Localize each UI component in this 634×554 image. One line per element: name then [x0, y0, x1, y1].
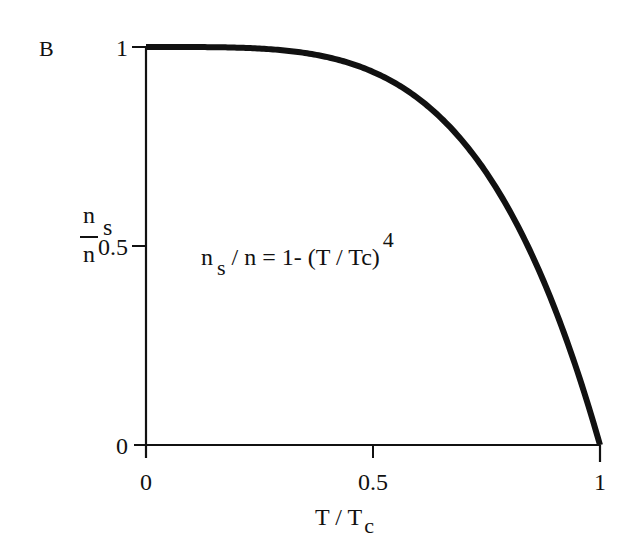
formula-subscript: s [217, 255, 226, 280]
x-tick-label-0: 0 [116, 470, 176, 494]
plot-canvas [0, 0, 634, 554]
x-tick-label-1: 1 [570, 470, 630, 494]
formula-ns: n [201, 244, 213, 270]
y-label-numerator: n [83, 203, 95, 227]
x-tick-label-0.5: 0.5 [343, 470, 403, 494]
x-axis-label: T / Tc [315, 505, 374, 529]
panel-label: B [39, 38, 54, 60]
fraction-bar [80, 236, 98, 238]
formula-body: / n = 1- (T / Tc) [232, 244, 380, 270]
y-label-subscript: s [103, 215, 112, 239]
y-label-denominator: n [83, 242, 95, 266]
y-tick-label-0: 0 [68, 434, 128, 458]
y-tick-label-1: 1 [68, 36, 128, 60]
formula-exponent: 4 [383, 227, 394, 252]
x-label-subscript: c [364, 513, 374, 538]
y-axis-label: n n s [80, 203, 130, 273]
x-label-main: T / T [315, 504, 362, 530]
formula-annotation: ns/ n = 1- (T / Tc)4 [201, 245, 394, 269]
